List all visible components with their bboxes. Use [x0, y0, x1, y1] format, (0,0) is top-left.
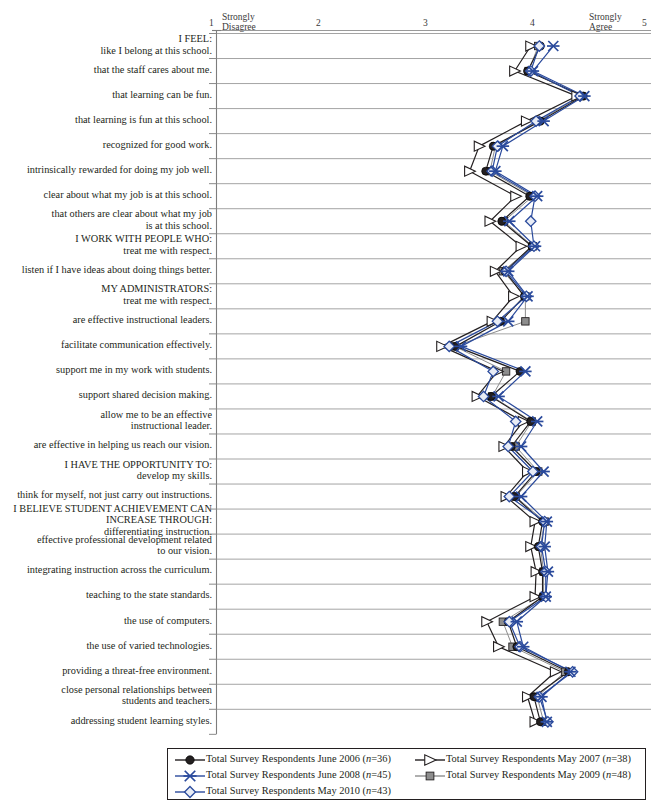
data-point-triangle-open — [482, 617, 493, 627]
legend-label: Total Survey Respondents June 2006 (n=36… — [206, 753, 391, 764]
survey-line-chart: 1 Strongly Disagree 2 3 4 Strongly Agree… — [0, 0, 651, 807]
data-point-triangle-open — [511, 191, 522, 201]
data-point-asterisk — [531, 416, 544, 426]
data-point-circle-filled — [186, 756, 194, 764]
legend-label: Total Survey Respondents May 2010 (n=43) — [206, 785, 391, 796]
chart-legend: Total Survey Respondents June 2006 (n=36… — [167, 748, 646, 800]
data-point-triangle-open — [509, 291, 520, 301]
legend-label: Total Survey Respondents May 2009 (n=48) — [446, 769, 631, 780]
data-point-asterisk — [503, 216, 515, 226]
data-point-square-filled — [522, 318, 529, 325]
data-point-diamond-open — [526, 216, 536, 226]
data-point-triangle-open — [494, 642, 505, 652]
data-point-triangle-open — [465, 166, 476, 176]
data-point-triangle-open — [550, 667, 561, 677]
data-point-asterisk — [547, 41, 560, 51]
data-point-triangle-open — [425, 755, 436, 766]
data-point-triangle-open — [516, 241, 527, 251]
data-point-asterisk — [537, 467, 550, 477]
data-point-asterisk — [515, 492, 528, 502]
data-point-asterisk — [519, 366, 532, 376]
data-point-square-filled — [426, 772, 434, 780]
legend-label: Total Survey Respondents June 2008 (n=45… — [206, 769, 391, 780]
data-point-asterisk — [515, 441, 528, 451]
data-point-triangle-open — [510, 66, 521, 76]
data-point-asterisk — [183, 771, 196, 782]
data-point-asterisk — [511, 617, 524, 627]
legend-label: Total Survey Respondents May 2007 (n=38) — [446, 753, 631, 764]
plot-area — [0, 0, 651, 807]
data-point-asterisk — [502, 316, 514, 326]
data-point-triangle-open — [474, 141, 485, 151]
data-point-diamond-open — [185, 787, 196, 798]
